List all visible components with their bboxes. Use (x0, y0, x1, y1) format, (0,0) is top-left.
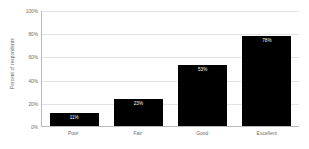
bar-slot: 11% (42, 11, 106, 126)
bar-value-label: 11% (50, 116, 99, 121)
bar[interactable]: 78% (242, 36, 291, 126)
bar-chart: Percent of respondents 0%20%40%60%80%100… (0, 0, 309, 149)
bar-series: 11%23%53%78% (42, 11, 299, 126)
x-axis-tick-label: Poor (41, 130, 106, 136)
x-axis-tick-label: Fair (106, 130, 171, 136)
x-axis-tick-label: Excellent (235, 130, 300, 136)
y-axis-tick-label: 60% (28, 55, 38, 60)
bar-value-label: 23% (114, 102, 163, 107)
bar-slot: 78% (235, 11, 299, 126)
y-axis-tick-label: 80% (28, 32, 38, 37)
y-axis-tick-label: 0% (31, 125, 38, 130)
plot-area: 11%23%53%78% (41, 11, 299, 127)
x-axis-tick-label: Good (170, 130, 235, 136)
bar-slot: 53% (171, 11, 235, 126)
y-axis-title-label: Percent of respondents (10, 38, 15, 89)
y-axis-tick-label: 20% (28, 101, 38, 106)
bar-slot: 23% (106, 11, 170, 126)
bar-value-label: 53% (178, 68, 227, 73)
y-axis-tick-label: 40% (28, 78, 38, 83)
y-axis-tick-label: 100% (26, 9, 38, 14)
x-axis-tick-labels: PoorFairGoodExcellent (41, 130, 299, 142)
bar[interactable]: 23% (114, 99, 163, 126)
bar[interactable]: 11% (50, 113, 99, 126)
y-axis-tick-labels: 0%20%40%60%80%100% (18, 0, 40, 127)
y-axis-title: Percent of respondents (6, 0, 18, 127)
bar[interactable]: 53% (178, 65, 227, 126)
bar-value-label: 78% (242, 39, 291, 44)
